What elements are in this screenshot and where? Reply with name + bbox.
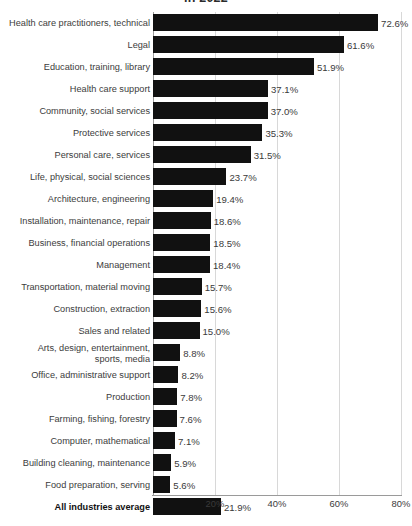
bar-value-label: 72.6% xyxy=(378,17,408,28)
bar-track: 8.8% xyxy=(153,344,412,361)
bar-value-label: 18.6% xyxy=(211,215,241,226)
bar-track: 18.4% xyxy=(153,256,412,273)
bar xyxy=(153,476,170,493)
bar-track: 7.1% xyxy=(153,432,412,449)
bar xyxy=(153,190,213,207)
bar-track: 7.8% xyxy=(153,388,412,405)
bar-value-label: 31.5% xyxy=(251,149,281,160)
bar-track: 8.2% xyxy=(153,366,412,383)
category-label: Production xyxy=(0,392,150,403)
bar-track: 19.4% xyxy=(153,190,412,207)
bar-track: 72.6% xyxy=(153,14,412,31)
bar-value-label: 8.8% xyxy=(180,347,205,358)
category-label: Building cleaning, maintenance xyxy=(0,458,150,469)
bar-row: Food preparation, serving5.6% xyxy=(0,474,412,496)
category-label: Business, financial operations xyxy=(0,238,150,249)
bar-row: Life, physical, social sciences23.7% xyxy=(0,166,412,188)
bar-value-label: 51.9% xyxy=(314,61,344,72)
category-label: Office, administrative support xyxy=(0,370,150,381)
bar-row: Personal care, services31.5% xyxy=(0,144,412,166)
bar-row: Architecture, engineering19.4% xyxy=(0,188,412,210)
bar-value-label: 19.4% xyxy=(213,193,243,204)
bar-value-label: 15.0% xyxy=(200,325,230,336)
bar-row: Community, social services37.0% xyxy=(0,100,412,122)
category-label: All industries average xyxy=(0,502,150,513)
x-axis-line xyxy=(152,495,402,496)
category-label: Community, social services xyxy=(0,106,150,117)
bar-chart: in 2022 Health care practitioners, techn… xyxy=(0,0,412,526)
category-label: Education, training, library xyxy=(0,62,150,73)
bar-track: 18.6% xyxy=(153,212,412,229)
bar xyxy=(153,124,262,141)
bar-track: 37.1% xyxy=(153,80,412,97)
bar xyxy=(153,300,201,317)
bar-row: Business, financial operations18.5% xyxy=(0,232,412,254)
category-label: Legal xyxy=(0,40,150,51)
bar-value-label: 23.7% xyxy=(226,171,256,182)
x-tick-label: 60% xyxy=(330,498,349,509)
bar xyxy=(153,168,226,185)
category-label: Construction, extraction xyxy=(0,304,150,315)
bar-track: 18.5% xyxy=(153,234,412,251)
x-tick-label: 40% xyxy=(268,498,287,509)
bar-value-label: 15.7% xyxy=(202,281,232,292)
bar-track: 15.0% xyxy=(153,322,412,339)
bar xyxy=(153,58,314,75)
bar xyxy=(153,14,378,31)
category-label: Transportation, material moving xyxy=(0,282,150,293)
category-label: Food preparation, serving xyxy=(0,480,150,491)
bar xyxy=(153,410,177,427)
bar-row: Computer, mathematical7.1% xyxy=(0,430,412,452)
bar-row: Protective services35.3% xyxy=(0,122,412,144)
bar xyxy=(153,388,177,405)
bar-value-label: 37.0% xyxy=(268,105,298,116)
bar-track: 51.9% xyxy=(153,58,412,75)
category-label: Protective services xyxy=(0,128,150,139)
chart-title: in 2022 xyxy=(0,0,412,5)
bar-track: 15.7% xyxy=(153,278,412,295)
bar xyxy=(153,344,180,361)
bar xyxy=(153,454,171,471)
x-tick-label: 20% xyxy=(206,498,225,509)
bar-track: 37.0% xyxy=(153,102,412,119)
category-label: Farming, fishing, forestry xyxy=(0,414,150,425)
category-label: Arts, design, entertainment, sports, med… xyxy=(0,343,150,364)
bar-row: Installation, maintenance, repair18.6% xyxy=(0,210,412,232)
bar xyxy=(153,256,210,273)
bar-row: Building cleaning, maintenance5.9% xyxy=(0,452,412,474)
bar-value-label: 15.6% xyxy=(201,303,231,314)
bar xyxy=(153,36,344,53)
bar-row: Transportation, material moving15.7% xyxy=(0,276,412,298)
category-label: Personal care, services xyxy=(0,150,150,161)
x-axis: 20%40%60%80% xyxy=(153,495,402,515)
bar xyxy=(153,322,200,339)
bar-row: Farming, fishing, forestry7.6% xyxy=(0,408,412,430)
category-label: Life, physical, social sciences xyxy=(0,172,150,183)
bar-value-label: 8.2% xyxy=(178,369,203,380)
bar xyxy=(153,278,202,295)
bar-value-label: 5.9% xyxy=(171,457,196,468)
category-label: Health care support xyxy=(0,84,150,95)
bar-track: 5.9% xyxy=(153,454,412,471)
bar-track: 7.6% xyxy=(153,410,412,427)
bar-value-label: 18.5% xyxy=(210,237,240,248)
category-label: Health care practitioners, technical xyxy=(0,18,150,29)
bar-row: Construction, extraction15.6% xyxy=(0,298,412,320)
category-label: Sales and related xyxy=(0,326,150,337)
bar xyxy=(153,212,211,229)
bar-value-label: 61.6% xyxy=(344,39,374,50)
bar-row: Health care practitioners, technical72.6… xyxy=(0,12,412,34)
bar-row: Health care support37.1% xyxy=(0,78,412,100)
bar-row: Office, administrative support8.2% xyxy=(0,364,412,386)
bar xyxy=(153,234,210,251)
bar-row: Arts, design, entertainment, sports, med… xyxy=(0,342,412,364)
bar-track: 61.6% xyxy=(153,36,412,53)
bar-value-label: 7.1% xyxy=(175,435,200,446)
category-label: Installation, maintenance, repair xyxy=(0,216,150,227)
bar xyxy=(153,366,178,383)
category-label: Architecture, engineering xyxy=(0,194,150,205)
bar-row: Sales and related15.0% xyxy=(0,320,412,342)
bar xyxy=(153,80,268,97)
bar-row: Legal61.6% xyxy=(0,34,412,56)
bar-row: Production7.8% xyxy=(0,386,412,408)
